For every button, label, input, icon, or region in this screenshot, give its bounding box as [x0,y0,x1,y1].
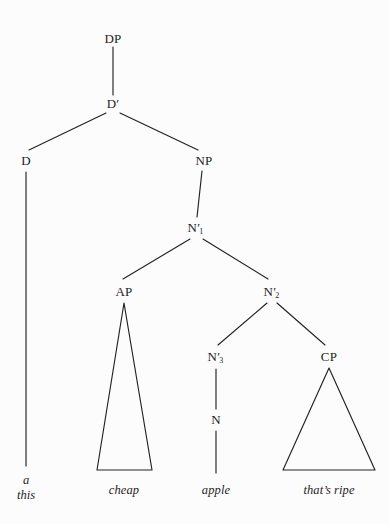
leaf-determiner-words: a this [17,473,35,504]
node-n: N [211,412,221,428]
node-np: NP [195,153,212,169]
node-n-bar-2-sub: 2 [275,291,279,300]
leaf-word-a: a [17,473,35,488]
edge-dbar-to-np [120,113,198,150]
tree-edges [26,47,325,473]
node-n-bar-2-text: N [264,284,274,299]
node-n-bar-1-sub: 1 [199,227,203,236]
edge-nbar1-to-ap [123,239,190,279]
edge-np-to-nbar1 [197,171,202,217]
node-n-bar-1: N′1 [188,220,205,236]
node-n-bar-2: N′2 [264,284,281,300]
node-ap: AP [115,284,132,300]
leaf-phrase-thats-ripe: that’s ripe [303,483,354,498]
leaf-word-cheap: cheap [109,483,139,498]
edge-dbar-to-d [29,113,106,150]
node-d-bar-prime: ′ [116,96,119,111]
node-d-bar: D′ [107,96,120,112]
node-d-bar-text: D [107,96,117,111]
edge-nbar2-to-cp [277,303,325,345]
cp-triangle [283,368,375,470]
leaf-word-apple: apple [202,483,230,498]
ap-triangle [97,303,152,470]
node-d: D [21,153,31,169]
edge-nbar1-to-nbar2 [203,239,268,279]
node-dp: DP [104,31,121,47]
tree-triangles [97,303,375,470]
node-cp: CP [321,349,337,365]
node-n-bar-3-text: N [208,349,218,364]
edge-nbar2-to-nbar3 [218,303,267,345]
leaf-word-this: this [17,488,35,503]
node-n-bar-3-sub: 3 [219,356,223,365]
syntax-tree-canvas [0,0,390,524]
node-n-bar-1-text: N [188,220,198,235]
node-n-bar-3: N′3 [208,349,225,365]
